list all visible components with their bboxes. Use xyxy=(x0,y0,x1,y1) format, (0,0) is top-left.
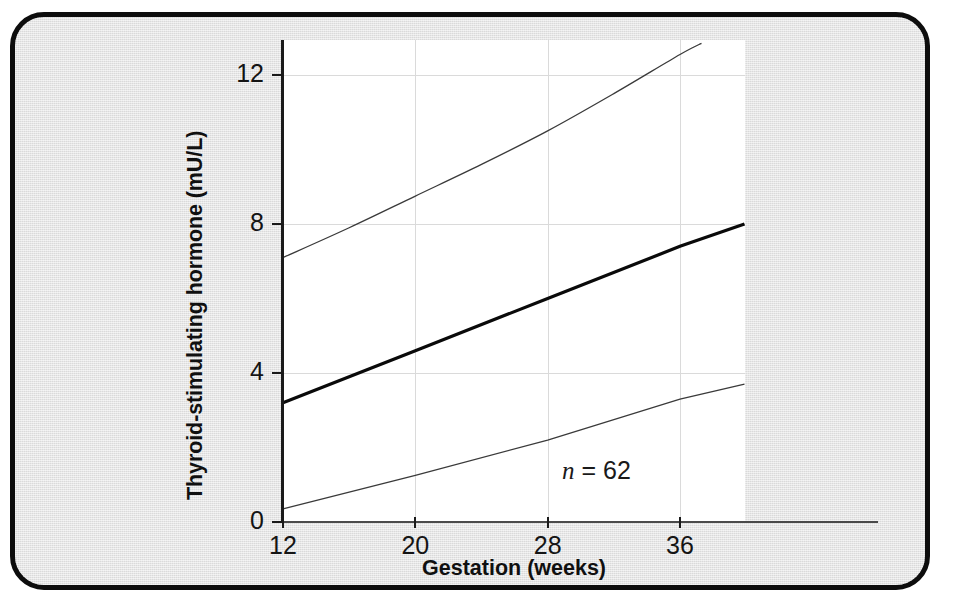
annotation-value: = 62 xyxy=(575,456,631,484)
sample-size-annotation: n = 62 xyxy=(562,456,631,485)
data-line xyxy=(283,384,745,509)
y-tick-label: 4 xyxy=(220,357,264,386)
x-tick-mark xyxy=(414,517,416,528)
annotation-variable: n xyxy=(562,457,575,484)
data-line xyxy=(283,224,745,403)
y-axis-label: Thyroid-stimulating hormone (mU/L) xyxy=(183,131,208,500)
y-tick-label: 12 xyxy=(220,59,264,88)
x-tick-mark xyxy=(679,517,681,528)
chart-container: 04812 12202836 Thyroid-stimulating hormo… xyxy=(0,0,966,606)
x-axis-label: Gestation (weeks) xyxy=(283,556,745,581)
y-tick-mark xyxy=(272,74,283,76)
x-tick-mark xyxy=(547,517,549,528)
data-line xyxy=(283,43,702,257)
x-axis-line xyxy=(283,521,878,523)
y-tick-label: 8 xyxy=(220,208,264,237)
x-tick-mark xyxy=(282,517,284,528)
y-axis-line xyxy=(281,40,284,523)
data-lines xyxy=(283,40,745,522)
figure-page: 04812 12202836 Thyroid-stimulating hormo… xyxy=(0,0,966,606)
y-tick-mark xyxy=(272,372,283,374)
y-tick-mark xyxy=(272,223,283,225)
plot-area xyxy=(283,40,745,522)
